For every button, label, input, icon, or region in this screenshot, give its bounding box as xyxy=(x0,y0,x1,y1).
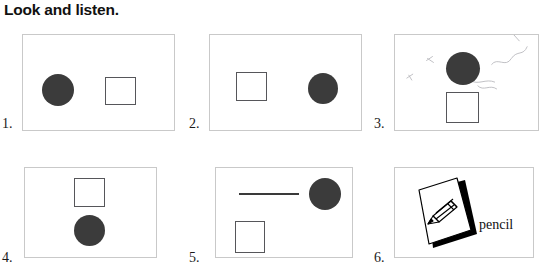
shape-square xyxy=(446,92,479,123)
exercise-panel-5[interactable] xyxy=(215,167,353,258)
exercise-panel-1[interactable] xyxy=(22,34,175,131)
shape-square xyxy=(74,178,105,207)
word-label-pencil: pencil xyxy=(479,217,513,233)
shape-circle xyxy=(74,215,105,246)
exercise-grid: 1. 2. 3. xyxy=(0,20,546,267)
exercise-panel-3[interactable] xyxy=(394,34,539,131)
shape-square xyxy=(235,221,265,253)
item-number-2: 2. xyxy=(189,117,200,131)
shape-line xyxy=(239,193,299,195)
shape-circle xyxy=(42,74,74,106)
shape-square xyxy=(105,77,136,105)
shape-circle xyxy=(309,178,341,210)
exercise-item-1: 1. xyxy=(0,20,180,140)
item-number-5: 5. xyxy=(189,251,200,265)
exercise-item-3: 3. xyxy=(372,20,546,140)
exercise-panel-4[interactable] xyxy=(24,167,157,258)
pencil-flashcard-icon xyxy=(403,172,481,254)
exercise-item-4: 4. xyxy=(0,147,180,267)
page-title: Look and listen. xyxy=(4,1,119,19)
exercise-panel-2[interactable] xyxy=(209,34,362,131)
exercise-panel-6[interactable]: pencil xyxy=(394,167,534,258)
shape-square xyxy=(236,72,267,101)
exercise-item-2: 2. xyxy=(187,20,367,140)
item-number-6: 6. xyxy=(374,251,385,265)
shape-circle xyxy=(446,52,480,85)
item-number-1: 1. xyxy=(2,117,13,131)
exercise-item-5: 5. xyxy=(187,147,367,267)
exercise-item-6: 6. xyxy=(372,147,546,267)
shape-circle xyxy=(308,73,338,104)
item-number-3: 3. xyxy=(374,117,385,131)
flashcard xyxy=(403,172,481,254)
item-number-4: 4. xyxy=(2,251,13,265)
